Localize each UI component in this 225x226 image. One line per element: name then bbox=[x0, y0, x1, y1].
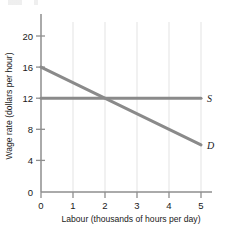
supply-demand-chart: 20 16 12 8 4 0 0 1 2 3 4 5 S D bbox=[0, 0, 225, 226]
y-tick-label: 16 bbox=[22, 62, 33, 73]
y-tick-label: 0 bbox=[28, 187, 33, 198]
axis-lines bbox=[41, 14, 212, 192]
x-tick-marks bbox=[41, 192, 201, 198]
x-tick-label: 1 bbox=[70, 200, 75, 211]
y-axis-title: Wage rate (dollars per hour) bbox=[4, 52, 14, 159]
x-axis-title: Labour (thousands of hours per day) bbox=[61, 214, 200, 224]
x-tick-labels: 0 1 2 3 4 5 bbox=[38, 200, 203, 211]
y-tick-label: 12 bbox=[22, 93, 33, 104]
y-tick-label: 20 bbox=[22, 31, 33, 42]
chart-canvas: 20 16 12 8 4 0 0 1 2 3 4 5 S D bbox=[0, 0, 225, 226]
x-tick-label: 5 bbox=[198, 200, 203, 211]
y-tick-labels: 20 16 12 8 4 0 bbox=[22, 31, 33, 199]
demand-curve bbox=[41, 67, 201, 145]
y-tick-label: 8 bbox=[28, 124, 33, 135]
supply-curve-label: S bbox=[207, 93, 212, 104]
x-tick-label: 3 bbox=[134, 200, 139, 211]
chart-screenshot: 20 16 12 8 4 0 0 1 2 3 4 5 S D bbox=[0, 0, 225, 226]
x-tick-label: 4 bbox=[166, 200, 171, 211]
x-tick-label: 2 bbox=[102, 200, 107, 211]
x-tick-label: 0 bbox=[38, 200, 43, 211]
demand-curve-label: D bbox=[206, 140, 215, 151]
gridlines-vertical bbox=[73, 22, 201, 192]
y-tick-label: 4 bbox=[28, 155, 33, 166]
